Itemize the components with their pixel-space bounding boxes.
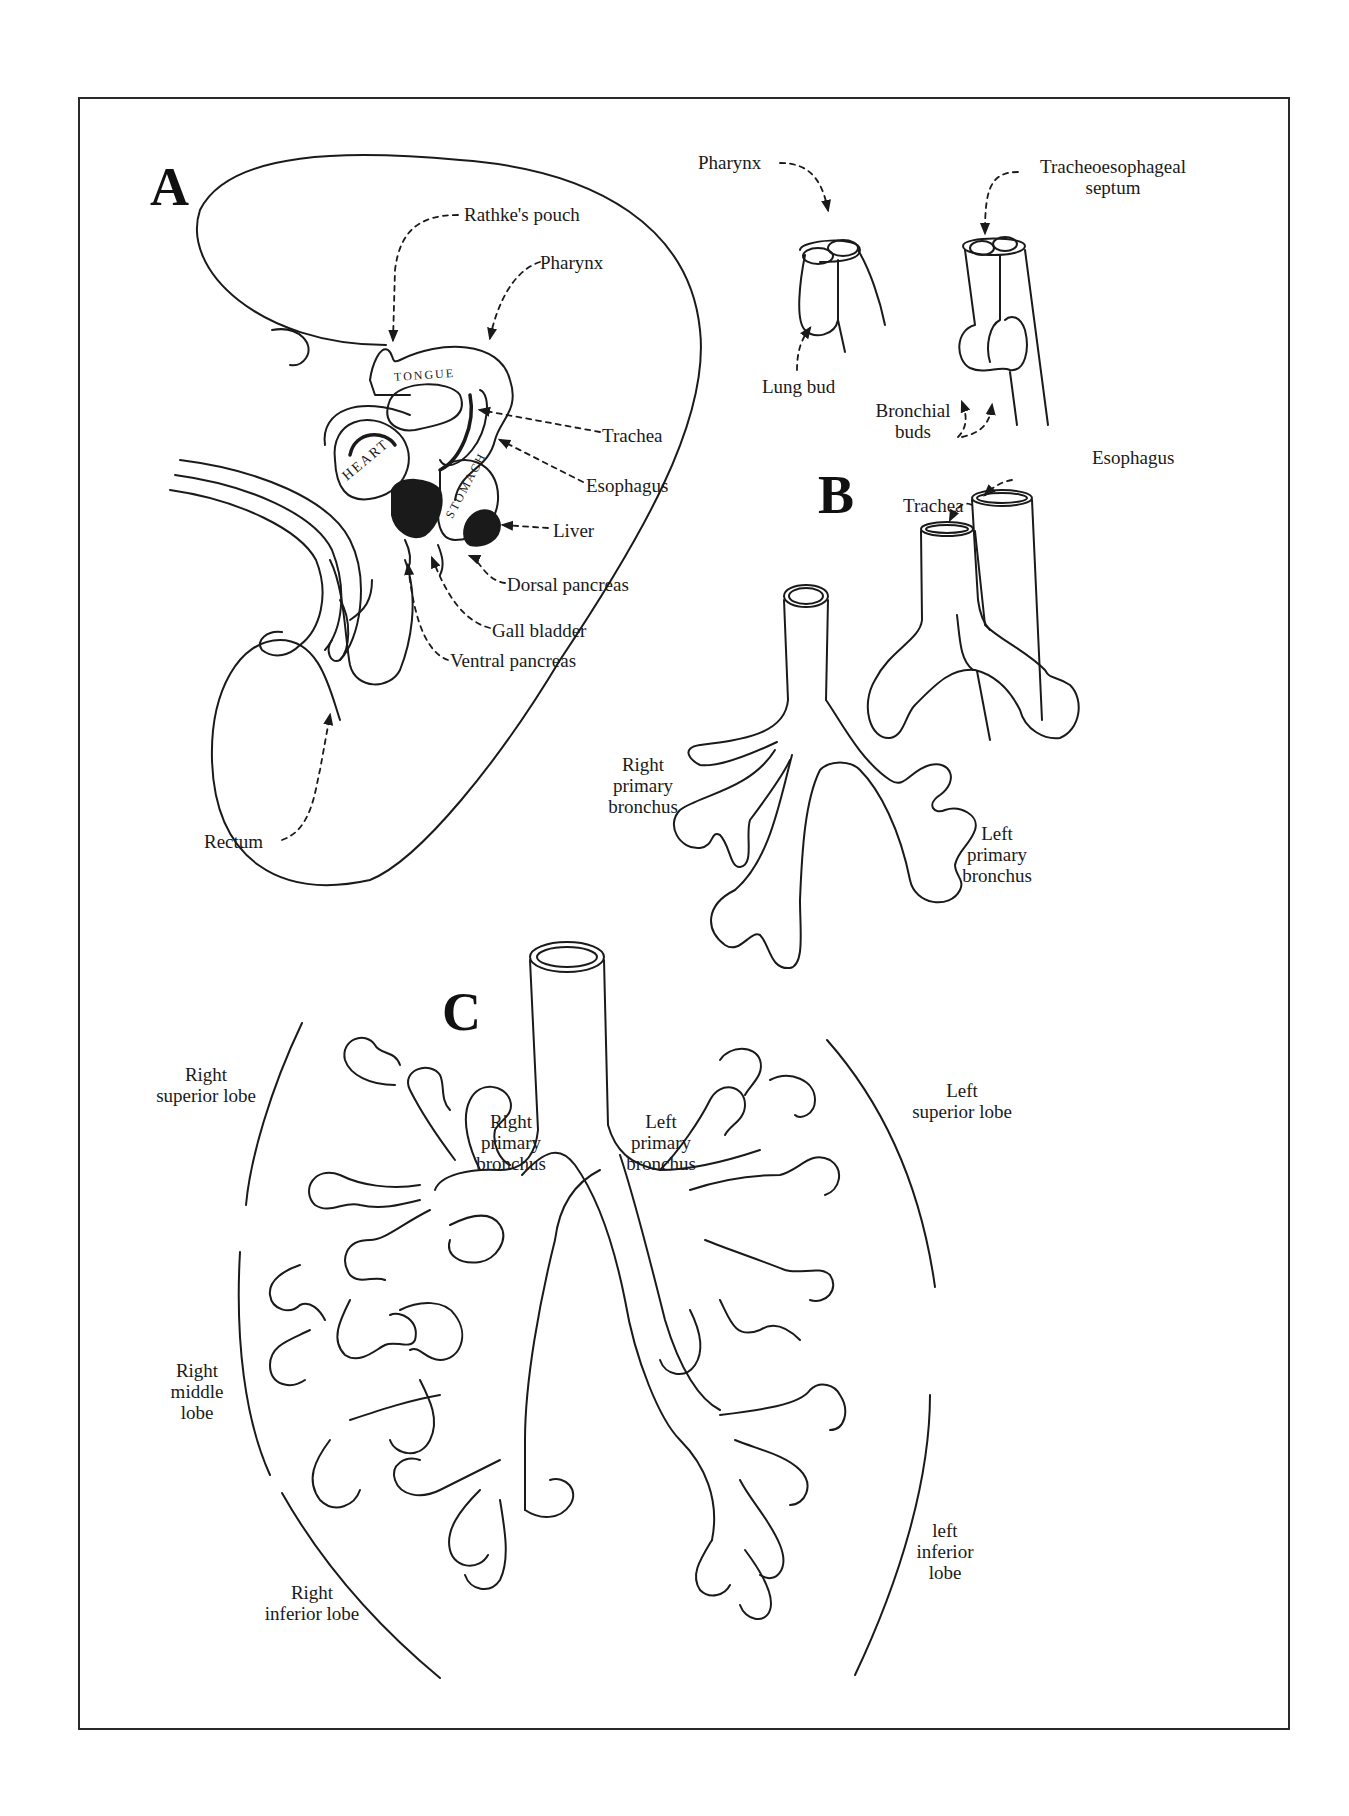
label-line: middle — [160, 1381, 234, 1402]
label-line: lobe — [908, 1562, 982, 1583]
label-trachea-a: Trachea — [602, 425, 663, 446]
label-right-middle-lobe: Right middle lobe — [160, 1360, 234, 1423]
panel-label-c: C — [442, 985, 481, 1039]
label-line: Tracheoesophageal — [1022, 156, 1204, 177]
label-right-superior-lobe: Right superior lobe — [148, 1064, 264, 1106]
label-line: septum — [1022, 177, 1204, 198]
label-ventral-pancreas: Ventral pancreas — [450, 650, 576, 671]
primary-bronchi-stage — [674, 585, 976, 968]
label-line: Bronchial — [866, 400, 960, 421]
label-line: bronchus — [950, 865, 1044, 886]
label-line: Left — [614, 1111, 708, 1132]
label-right-primary-bronchus-c: Right primary bronchus — [464, 1111, 558, 1174]
label-pharynx-b: Pharynx — [698, 152, 761, 173]
label-line: Left — [950, 823, 1044, 844]
label-line: Right — [596, 754, 690, 775]
label-line: primary — [464, 1132, 558, 1153]
label-esophagus-b: Esophagus — [1092, 447, 1174, 468]
label-line: Right — [160, 1360, 234, 1381]
label-left-superior-lobe: Left superior lobe — [900, 1080, 1024, 1122]
label-line: inferior — [908, 1541, 982, 1562]
label-line: primary — [596, 775, 690, 796]
diagram-artwork — [0, 0, 1349, 1816]
label-dorsal-pancreas: Dorsal pancreas — [507, 574, 629, 595]
label-rathkes-pouch: Rathke's pouch — [464, 204, 580, 225]
label-line: inferior lobe — [252, 1603, 372, 1624]
label-right-primary-bronchus-b: Right primary bronchus — [596, 754, 690, 817]
label-left-primary-bronchus-c: Left primary bronchus — [614, 1111, 708, 1174]
label-left-primary-bronchus-b: Left primary bronchus — [950, 823, 1044, 886]
panel-label-b: B — [818, 468, 854, 522]
lung-bud-stage-1 — [780, 163, 885, 370]
bronchial-tree — [239, 942, 935, 1678]
label-line: bronchus — [596, 796, 690, 817]
label-line: superior lobe — [148, 1085, 264, 1106]
label-right-inferior-lobe: Right inferior lobe — [252, 1582, 372, 1624]
label-line: bronchus — [464, 1153, 558, 1174]
label-line: primary — [614, 1132, 708, 1153]
label-liver: Liver — [553, 520, 594, 541]
label-line: Left — [900, 1080, 1024, 1101]
label-trachea-b: Trachea — [903, 495, 964, 516]
label-rectum: Rectum — [204, 831, 263, 852]
label-esophagus-a: Esophagus — [586, 475, 668, 496]
lung-bud-stage-3 — [868, 480, 1079, 740]
label-line: superior lobe — [900, 1101, 1024, 1122]
label-line: Right — [464, 1111, 558, 1132]
label-line: primary — [950, 844, 1044, 865]
label-tracheoesophageal-septum: Tracheoesophageal septum — [1022, 156, 1204, 198]
label-pharynx-a: Pharynx — [540, 252, 603, 273]
label-line: buds — [866, 421, 960, 442]
label-left-inferior-lobe: left inferior lobe — [908, 1520, 982, 1583]
label-bronchial-buds: Bronchial buds — [866, 400, 960, 442]
label-line: Right — [148, 1064, 264, 1085]
label-lung-bud: Lung bud — [762, 376, 835, 397]
label-gall-bladder: Gall bladder — [492, 620, 586, 641]
panel-label-a: A — [150, 160, 189, 214]
label-line: lobe — [160, 1402, 234, 1423]
label-line: bronchus — [614, 1153, 708, 1174]
lung-bud-stage-2 — [958, 172, 1048, 437]
label-line: left — [908, 1520, 982, 1541]
label-line: Right — [252, 1582, 372, 1603]
